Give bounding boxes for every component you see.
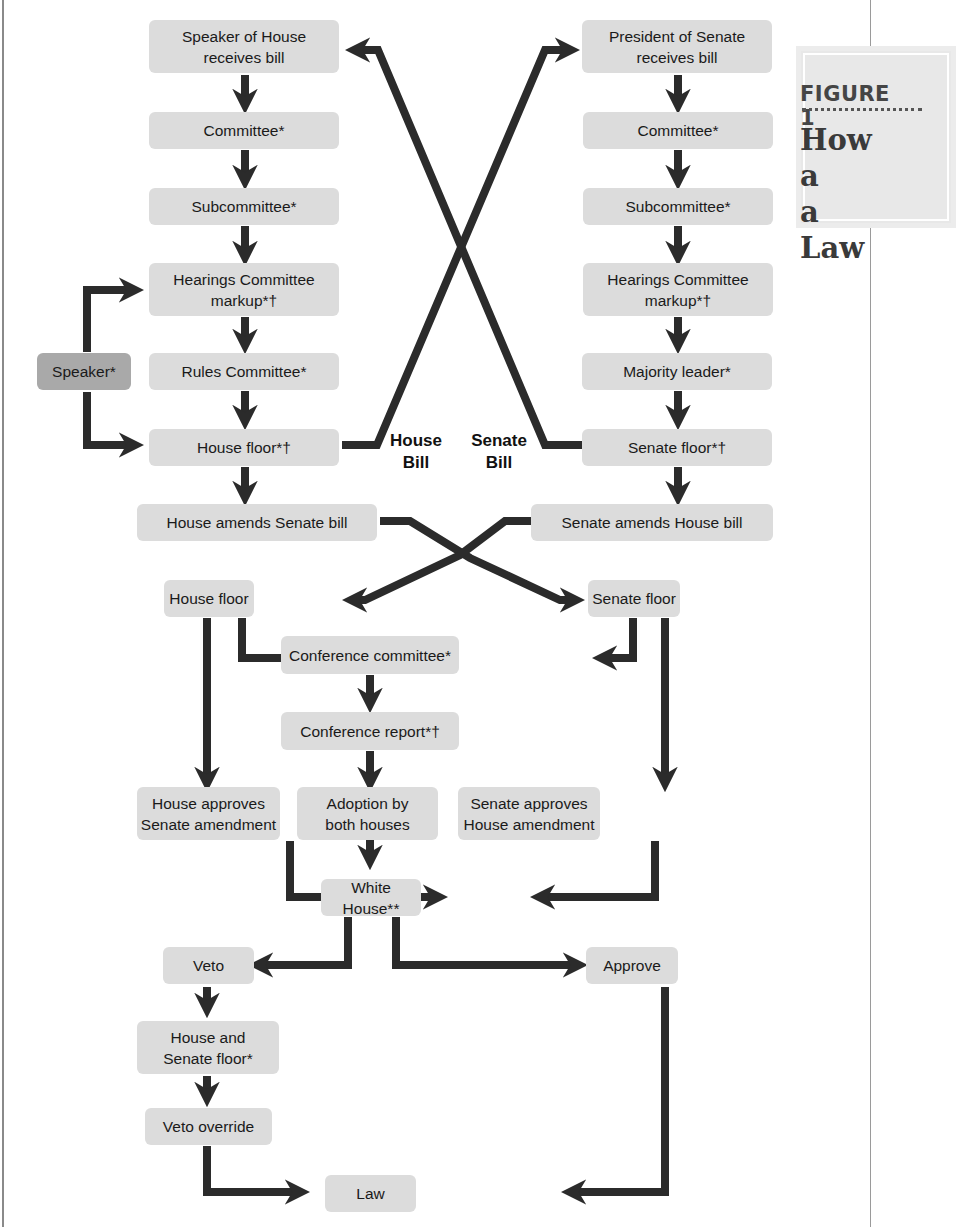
conference-report-box: Conference report*† bbox=[281, 712, 459, 750]
conference-committee-box: Conference committee* bbox=[281, 636, 459, 674]
house-committee-box: Committee* bbox=[149, 112, 339, 149]
arrow-whitehouse-to-veto bbox=[258, 917, 348, 965]
senate-hearings-box: Hearings Committee markup*† bbox=[583, 263, 773, 316]
president-receives-bill-box: President of Senate receives bill bbox=[582, 20, 772, 73]
arrow-house-bill-to-senate bbox=[342, 50, 570, 445]
house-floor-second-box: House floor bbox=[164, 580, 254, 617]
house-approves-box: House approves Senate amendment bbox=[137, 787, 280, 840]
approve-box: Approve bbox=[586, 947, 678, 984]
house-bill-label: House Bill bbox=[385, 430, 447, 474]
house-subcommittee-box: Subcommittee* bbox=[149, 188, 339, 225]
arrow-whitehouse-to-approve bbox=[396, 917, 578, 965]
senate-floor-second-box: Senate floor bbox=[588, 580, 680, 617]
white-house-box: White House** bbox=[321, 879, 421, 916]
senate-approves-box: Senate approves House amendment bbox=[458, 787, 600, 840]
rules-committee-box: Rules Committee* bbox=[149, 353, 339, 390]
arrow-approve-to-law bbox=[571, 987, 665, 1192]
arrow-senate-approves-to-whitehouse bbox=[540, 841, 655, 897]
arrow-override-to-law bbox=[207, 1146, 300, 1192]
adoption-both-houses-box: Adoption by both houses bbox=[297, 787, 438, 840]
arrow-senate-floor-to-conference bbox=[602, 618, 633, 658]
veto-override-box: Veto override bbox=[145, 1108, 272, 1145]
senate-amends-house-bill-box: Senate amends House bill bbox=[531, 504, 773, 541]
senate-committee-box: Committee* bbox=[583, 112, 773, 149]
senate-subcommittee-box: Subcommittee* bbox=[583, 188, 773, 225]
veto-box: Veto bbox=[163, 947, 254, 984]
senate-floor-box: Senate floor*† bbox=[582, 429, 772, 466]
house-hearings-box: Hearings Committee markup*† bbox=[149, 263, 339, 316]
house-amends-senate-bill-box: House amends Senate bill bbox=[137, 504, 377, 541]
arrow-senate-amend-to-house-floor bbox=[352, 521, 536, 600]
house-floor-box: House floor*† bbox=[149, 429, 339, 466]
arrow-speaker-to-hearings bbox=[87, 290, 134, 352]
arrow-speaker-to-floor bbox=[87, 392, 134, 445]
majority-leader-box: Majority leader* bbox=[582, 353, 772, 390]
arrow-senate-bill-to-house bbox=[355, 50, 582, 445]
law-box: Law bbox=[325, 1175, 416, 1212]
senate-bill-label: Senate Bill bbox=[466, 430, 532, 474]
house-and-senate-floor-box: House and Senate floor* bbox=[137, 1021, 279, 1074]
speaker-box: Speaker* bbox=[37, 353, 131, 390]
speaker-receives-bill-box: Speaker of House receives bill bbox=[149, 20, 339, 73]
